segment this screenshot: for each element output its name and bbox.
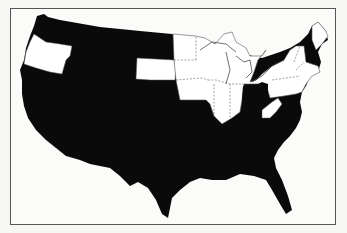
state-maine [312,22,328,50]
us-map [0,0,347,233]
state-south-dakota [136,58,176,80]
